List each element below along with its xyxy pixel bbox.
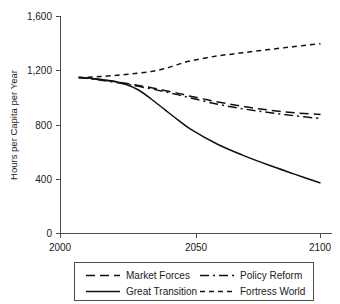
- legend-label-market-forces: Market Forces: [126, 270, 190, 281]
- x-axis-group: 2000 2050 2100: [49, 234, 332, 254]
- y-tick-800: 800: [35, 120, 60, 131]
- y-tick-1200: 1,200: [27, 65, 61, 76]
- x-tick-label: 2100: [309, 242, 332, 253]
- x-tick-label: 2000: [49, 242, 72, 253]
- legend-item-policy-reform[interactable]: Policy Reform: [200, 270, 302, 281]
- y-tick-label: 800: [35, 120, 52, 131]
- legend-label-fortress-world: Fortress World: [240, 286, 305, 297]
- y-tick-label: 1,200: [27, 65, 52, 76]
- y-tick-400: 400: [35, 174, 60, 185]
- x-tick-2000: 2000: [49, 234, 72, 254]
- series-line-great-transition: [79, 78, 321, 184]
- legend: Market Forces Policy Reform Great Transi…: [75, 263, 314, 301]
- legend-label-policy-reform: Policy Reform: [240, 270, 302, 281]
- y-axis-title: Hours per Capita per Year: [8, 70, 19, 180]
- legend-label-great-transition: Great Transition: [126, 286, 197, 297]
- x-tick-2050: 2050: [185, 234, 208, 254]
- y-tick-label: 0: [46, 228, 52, 239]
- legend-item-fortress-world[interactable]: Fortress World: [200, 286, 305, 297]
- series-line-policy-reform: [79, 78, 321, 119]
- line-chart: 1,600 1,200 800 400 0 Hours per Capita p…: [0, 0, 340, 304]
- y-tick-0: 0: [46, 228, 60, 239]
- x-tick-2100: 2100: [309, 234, 332, 254]
- series-line-fortress-world: [79, 44, 321, 78]
- chart-container: 1,600 1,200 800 400 0 Hours per Capita p…: [0, 0, 340, 304]
- legend-item-great-transition[interactable]: Great Transition: [86, 286, 197, 297]
- legend-item-market-forces[interactable]: Market Forces: [86, 270, 190, 281]
- y-tick-1600: 1,600: [27, 11, 61, 22]
- series-layer: [79, 44, 321, 183]
- y-tick-label: 400: [35, 174, 52, 185]
- x-tick-label: 2050: [185, 242, 208, 253]
- y-axis-group: 1,600 1,200 800 400 0 Hours per Capita p…: [8, 11, 61, 239]
- series-line-market-forces: [79, 78, 321, 115]
- y-tick-label: 1,600: [27, 11, 52, 22]
